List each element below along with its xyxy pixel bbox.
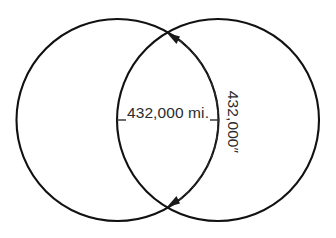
diagram-canvas: 432,000 mi. 432,000″ <box>0 0 336 238</box>
venn-diagram-figure: 432,000 mi. 432,000″ <box>0 0 336 238</box>
diameter-label: 432,000 mi. <box>127 104 209 121</box>
arc-arrow-head-top-icon <box>167 33 180 44</box>
arc-label: 432,000″ <box>225 91 242 154</box>
arc-arrow-head-bottom-icon <box>167 196 180 207</box>
